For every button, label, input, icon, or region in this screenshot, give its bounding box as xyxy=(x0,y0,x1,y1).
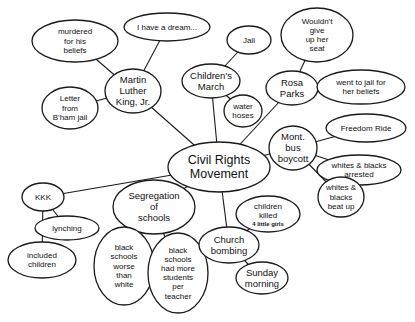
node-label: whites & blacks xyxy=(330,161,386,170)
node-label: Sunday xyxy=(246,267,278,278)
node-label: Church xyxy=(214,234,245,245)
node-beat-up: whites &blacksbeat up xyxy=(318,177,364,217)
node-label: went to jail for xyxy=(335,78,386,87)
node-crm: Civil RightsMovement xyxy=(168,142,270,192)
node-label: water xyxy=(232,102,253,111)
node-label: bombing xyxy=(211,245,247,256)
node-water-hoses: waterhoses xyxy=(224,95,262,127)
node-label: KKK xyxy=(35,193,52,202)
node-label: Parks xyxy=(280,88,305,99)
node-dream: I have a dream... xyxy=(124,13,210,41)
node-sublabel: 4 little girls xyxy=(252,221,284,227)
node-label: for his xyxy=(64,37,86,46)
node-worse: blackschoolsworsethanwhite xyxy=(94,227,154,305)
node-label: murdered xyxy=(58,27,92,36)
node-letter: LetterfromB'ham jail xyxy=(42,87,98,129)
node-label: Mont. xyxy=(281,131,305,142)
node-label: Freedom Ride xyxy=(341,124,392,133)
node-label: morning xyxy=(245,278,279,289)
node-label: from xyxy=(62,104,78,113)
node-label: than xyxy=(116,271,132,280)
node-label: lynching xyxy=(52,224,81,233)
node-label: black xyxy=(169,246,189,255)
node-label: hoses xyxy=(232,111,253,120)
node-label: worse xyxy=(112,262,135,271)
node-label: of xyxy=(150,201,158,212)
node-label: give xyxy=(310,26,325,35)
node-church: Churchbombing xyxy=(199,227,259,263)
node-included-children: includedchildren xyxy=(8,242,76,278)
node-label: per xyxy=(172,282,184,291)
node-rosa-parks: RosaParks xyxy=(266,71,318,105)
node-label: King, Jr. xyxy=(116,96,150,107)
concept-map: Civil RightsMovementMartinLutherKing, Jr… xyxy=(0,0,415,322)
node-label: killed xyxy=(259,211,277,220)
node-label: Jail xyxy=(243,36,255,45)
node-label: Rosa xyxy=(281,77,304,88)
node-lynching: lynching xyxy=(35,216,99,240)
node-label: schools xyxy=(164,255,191,264)
node-label: B'ham jail xyxy=(53,113,88,122)
node-segregation: Segregationofschools xyxy=(113,180,195,234)
node-rp-jail: went to jail forher beliefs xyxy=(317,70,405,104)
node-sunday: Sundaymorning xyxy=(236,262,288,294)
node-murdered: murderedfor hisbeliefs xyxy=(32,20,118,62)
node-label: children xyxy=(28,260,56,269)
node-label: white xyxy=(114,280,134,289)
node-label: children xyxy=(254,202,282,211)
node-label: black xyxy=(115,243,135,252)
node-label: Letter xyxy=(60,94,81,103)
concept-nodes: Civil RightsMovementMartinLutherKing, Jr… xyxy=(8,8,406,313)
node-label: Martin xyxy=(120,74,146,85)
node-label: teacher xyxy=(165,292,192,301)
node-label: included xyxy=(27,251,57,260)
node-label: Wouldn't xyxy=(302,17,334,26)
node-label: March xyxy=(198,81,224,92)
node-label: Civil Rights xyxy=(188,153,251,167)
node-boycott: Mont.busboycott xyxy=(269,126,317,170)
node-label: I have a dream... xyxy=(137,23,197,32)
node-seat: Wouldn'tgiveup herseat xyxy=(281,8,353,62)
node-label: seat xyxy=(309,44,325,53)
node-mlk: MartinLutherKing, Jr. xyxy=(105,69,161,113)
node-jail: Jail xyxy=(227,26,271,54)
node-label: Movement xyxy=(190,167,249,181)
node-label: Segregation xyxy=(128,190,179,201)
node-label: up her xyxy=(306,35,329,44)
node-label: had more xyxy=(161,264,195,273)
node-label: schools xyxy=(138,212,170,223)
node-label: Children's xyxy=(190,70,232,81)
node-childrens-march: Children'sMarch xyxy=(182,64,240,98)
node-label: boycott xyxy=(278,153,309,164)
node-label: Luther xyxy=(120,85,147,96)
node-label: beat up xyxy=(328,202,355,211)
node-label: blacks xyxy=(330,193,353,202)
node-label: students xyxy=(163,273,193,282)
node-label: beliefs xyxy=(63,46,86,55)
node-label: bus xyxy=(285,142,301,153)
node-label: her beliefs xyxy=(343,87,380,96)
node-children-killed: childrenkilled4 little girls xyxy=(236,196,300,232)
node-label: whites & xyxy=(325,183,357,192)
node-label: schools xyxy=(110,252,137,261)
node-kkk: KKK xyxy=(22,183,64,211)
node-freedom-ride: Freedom Ride xyxy=(326,114,406,142)
